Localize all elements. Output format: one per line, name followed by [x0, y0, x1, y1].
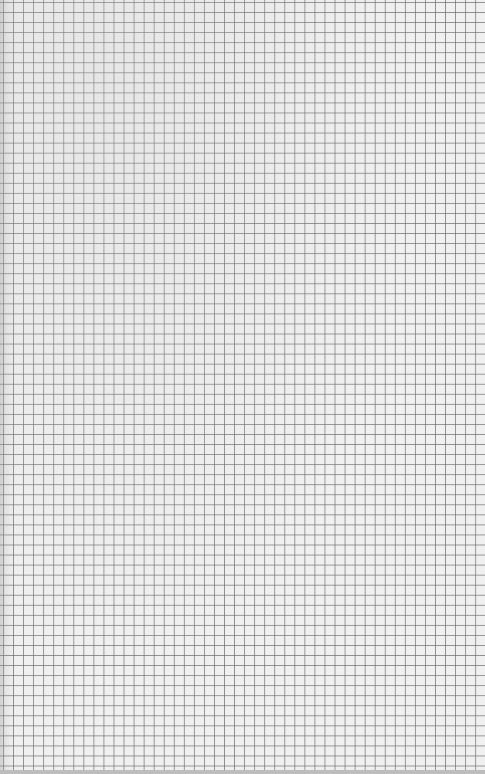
graph-paper-sheet: [0, 0, 485, 774]
scan-shading: [0, 0, 485, 774]
paper-bottom-edge: [0, 770, 485, 774]
